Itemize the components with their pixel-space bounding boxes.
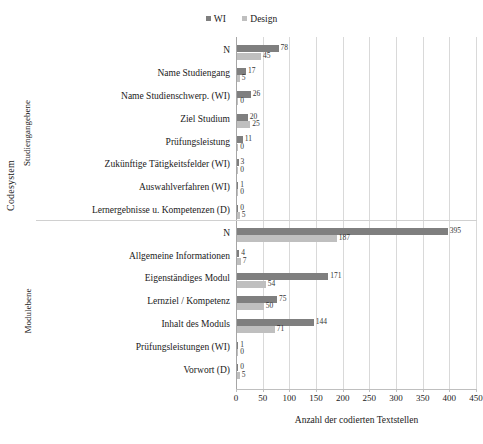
category-label: Auswahlverfahren (WI) [31, 182, 236, 192]
bar-design[interactable] [237, 303, 264, 310]
x-tick-label: 100 [274, 393, 304, 403]
bar-design-value: 50 [266, 302, 274, 309]
bar-wi[interactable] [237, 342, 238, 349]
y-axis-title: Codesystem [2, 0, 18, 370]
bar-design[interactable] [237, 98, 238, 105]
bar-wi[interactable] [237, 273, 328, 280]
bar-design-value: 5 [242, 371, 246, 378]
bar-design[interactable] [237, 53, 261, 60]
bar-design-value: 25 [252, 120, 260, 127]
x-tick-label: 350 [408, 393, 438, 403]
x-tick-label: 50 [248, 393, 278, 403]
category-label: Allgemeine Informationen [31, 251, 236, 261]
x-tick-label: 0 [221, 393, 251, 403]
x-tick-mark [423, 389, 424, 392]
category-label: Vorwort (D) [31, 365, 236, 375]
x-tick-mark [449, 389, 450, 392]
bar-wi[interactable] [237, 159, 239, 166]
bar-design-value: 187 [339, 234, 350, 241]
bar-design[interactable] [237, 121, 250, 128]
chart-legend: WI Design [0, 12, 483, 25]
bar-design-value: 71 [277, 325, 285, 332]
legend-swatch-wi [206, 16, 211, 21]
x-tick-mark [263, 389, 264, 392]
group-separator [36, 220, 477, 221]
bar-design[interactable] [237, 281, 266, 288]
legend-item-wi: WI [206, 12, 226, 25]
bar-wi[interactable] [237, 250, 239, 257]
category-label: Name Studiengang [31, 68, 236, 78]
bar-row: Vorwort (D)05 [236, 360, 477, 383]
bar-wi[interactable] [237, 364, 238, 371]
category-label: Prüfungsleistungen (WI) [31, 342, 236, 352]
bar-wi[interactable] [237, 114, 248, 121]
category-label: Lernergebnisse u. Kompetenzen (D) [31, 205, 236, 215]
bar-design[interactable] [237, 372, 240, 379]
bar-row: N7845 [236, 41, 477, 64]
x-tick-mark [396, 389, 397, 392]
legend-swatch-design [242, 16, 247, 21]
bar-row: Prüfungsleistung110 [236, 132, 477, 155]
bar-wi[interactable] [237, 182, 238, 189]
bar-design[interactable] [237, 189, 238, 196]
bar-row: N395187 [236, 223, 477, 246]
x-tick-label: 300 [381, 393, 411, 403]
bar-row: Name Studiengang175 [236, 64, 477, 87]
bar-design[interactable] [237, 326, 275, 333]
category-label: Name Studienschwerp. (WI) [31, 91, 236, 101]
category-label: Eigenständiges Modul [31, 273, 236, 283]
group-label-studiengangebene-text: Studiengangebene [22, 100, 32, 166]
bar-wi[interactable] [237, 205, 238, 212]
bar-row: Ziel Studium2025 [236, 109, 477, 132]
bar-row: Inhalt des Moduls14471 [236, 315, 477, 338]
x-tick-mark [343, 389, 344, 392]
bar-design-value: 45 [263, 52, 271, 59]
bar-design-value: 0 [240, 143, 244, 150]
bar-design-value: 0 [240, 97, 244, 104]
bar-design[interactable] [237, 167, 238, 174]
bar-design[interactable] [237, 235, 337, 242]
category-label: N [31, 228, 236, 238]
x-tick-label: 150 [301, 393, 331, 403]
legend-label-design: Design [250, 13, 277, 25]
bar-wi-value: 11 [245, 135, 252, 142]
bar-row: Zukünftige Tätigkeitsfelder (WI)30 [236, 155, 477, 178]
legend-label-wi: WI [214, 13, 226, 25]
x-tick-mark [369, 389, 370, 392]
bar-wi-value: 171 [330, 272, 341, 279]
bar-design-value: 54 [268, 280, 276, 287]
bar-wi-value: 78 [281, 44, 289, 51]
bar-design[interactable] [237, 75, 240, 82]
bar-wi[interactable] [237, 319, 314, 326]
bar-design-value: 0 [240, 188, 244, 195]
bar-design-value: 0 [240, 166, 244, 173]
x-tick-mark [289, 389, 290, 392]
bar-wi-value: 75 [279, 295, 287, 302]
bar-row: Auswahlverfahren (WI)10 [236, 178, 477, 201]
bar-row: Prüfungsleistungen (WI)10 [236, 337, 477, 360]
x-axis-title: Anzahl der codierten Textstellen [230, 415, 483, 425]
bar-design[interactable] [237, 349, 238, 356]
x-tick-mark [316, 389, 317, 392]
bar-design-value: 5 [242, 211, 246, 218]
bar-wi[interactable] [237, 45, 279, 52]
plot-area: N7845Name Studiengang175Name Studienschw… [236, 37, 477, 389]
bar-chart: WI Design Codesystem Studiengangebene Mo… [0, 0, 483, 444]
category-label: Zukünftige Tätigkeitsfelder (WI) [31, 159, 236, 169]
category-label: Lernziel / Kompetenz [31, 296, 236, 306]
x-tick-mark [236, 389, 237, 392]
bar-design[interactable] [237, 144, 238, 151]
x-tick-label: 400 [434, 393, 464, 403]
bar-design[interactable] [237, 212, 240, 219]
bar-design-value: 7 [243, 257, 247, 264]
category-label: Inhalt des Moduls [31, 319, 236, 329]
bar-wi-value: 144 [316, 318, 327, 325]
x-tick-label: 250 [354, 393, 384, 403]
bar-row: Allgemeine Informationen47 [236, 246, 477, 269]
bar-design[interactable] [237, 258, 241, 265]
legend-item-design: Design [242, 12, 277, 25]
bar-wi-value: 26 [253, 90, 261, 97]
bar-row: Eigenständiges Modul17154 [236, 269, 477, 292]
bar-wi-value: 395 [450, 227, 461, 234]
bar-design-value: 0 [240, 348, 244, 355]
